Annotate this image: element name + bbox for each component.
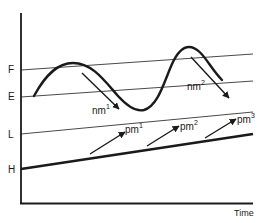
label-pm2-sup: 2: [194, 119, 198, 126]
label-nm2-sup: 2: [201, 79, 205, 86]
x-axis-label: Time: [234, 208, 254, 218]
level-label-h: H: [8, 164, 15, 175]
level-label-e: E: [8, 91, 15, 102]
label-nm2: nm2: [187, 79, 205, 92]
diagram-canvas: Time F E L H nm1 nm2 pm1 pm2 pm3: [0, 0, 265, 223]
label-nm1-base: nm: [92, 105, 106, 116]
label-nm1-sup: 1: [106, 103, 110, 110]
label-nm1: nm1: [92, 103, 110, 116]
label-pm3-sup: 3: [251, 112, 255, 119]
label-pm2: pm2: [180, 119, 198, 132]
label-pm1: pm1: [125, 122, 143, 135]
arrow-pm3: [205, 119, 236, 138]
level-label-f: F: [8, 64, 14, 75]
arrow-pm2: [147, 126, 179, 146]
level-line-h: [21, 134, 253, 169]
label-pm1-sup: 1: [139, 122, 143, 129]
label-pm1-base: pm: [125, 124, 139, 135]
label-pm3: pm3: [237, 112, 255, 125]
level-line-e: [21, 81, 253, 97]
arrow-pm1: [90, 132, 125, 154]
level-label-l: L: [8, 129, 14, 140]
label-pm3-base: pm: [237, 114, 251, 125]
label-nm2-base: nm: [187, 81, 201, 92]
wave-curve: [34, 47, 222, 110]
label-pm2-base: pm: [180, 121, 194, 132]
